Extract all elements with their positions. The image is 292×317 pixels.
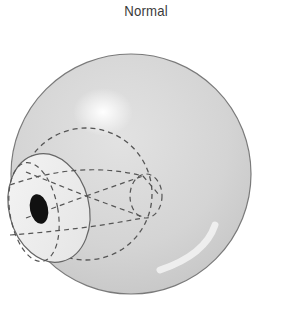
sphere-highlight — [73, 88, 133, 136]
eye-diagram — [0, 0, 292, 317]
